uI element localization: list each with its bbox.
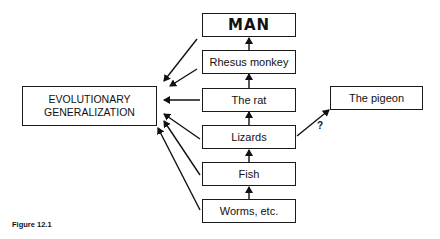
question-mark-label: ? xyxy=(317,120,323,131)
node-pigeon: The pigeon xyxy=(330,86,423,110)
node-man: MAN xyxy=(202,13,296,37)
node-rhesus-monkey: Rhesus monkey xyxy=(202,50,296,74)
figure-caption: Figure 12.1 xyxy=(12,220,52,229)
node-rat-label: The rat xyxy=(232,94,267,107)
node-pigeon-label: The pigeon xyxy=(349,92,404,105)
node-man-label: MAN xyxy=(228,19,270,32)
node-fish: Fish xyxy=(202,162,296,186)
generalization-line2: GENERALIZATION xyxy=(44,106,135,119)
node-rat: The rat xyxy=(202,88,296,112)
node-rhesus-label: Rhesus monkey xyxy=(210,56,289,69)
node-evolutionary-generalization: EVOLUTIONARY GENERALIZATION xyxy=(22,86,157,126)
node-worms: Worms, etc. xyxy=(202,199,296,223)
generalization-line1: EVOLUTIONARY xyxy=(48,93,130,106)
node-lizards-label: Lizards xyxy=(231,131,266,144)
node-fish-label: Fish xyxy=(239,168,260,181)
node-worms-label: Worms, etc. xyxy=(220,205,278,218)
node-lizards: Lizards xyxy=(202,125,296,149)
